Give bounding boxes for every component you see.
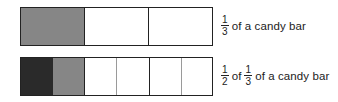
bar-segment-dark (21, 58, 53, 95)
label-one-third: 1 3 of a candy bar (221, 15, 306, 36)
fraction-numerator: 1 (244, 65, 252, 76)
fraction-denominator: 3 (245, 76, 251, 86)
fraction-one-half: 1 2 (221, 65, 229, 86)
label-text: of a candy bar (232, 20, 306, 32)
bar-segment-shaded (53, 58, 85, 95)
candy-bar-thirds (20, 7, 213, 46)
bar-segment-empty (150, 58, 182, 95)
bar-segment-empty (85, 58, 117, 95)
fraction-denominator: 2 (222, 76, 228, 86)
label-of: of (232, 70, 242, 82)
bar-segment-shaded (21, 8, 85, 45)
fraction-numerator: 1 (221, 65, 229, 76)
candy-bar-sixths (20, 57, 213, 96)
fraction-one-third: 1 3 (221, 15, 229, 36)
fraction-numerator: 1 (221, 15, 229, 26)
bar-segment-empty (85, 8, 149, 45)
bar-segment-empty (149, 8, 212, 45)
fraction-one-third: 1 3 (244, 65, 252, 86)
bar-segment-empty (182, 58, 212, 95)
label-text: of a candy bar (255, 70, 329, 82)
label-half-of-third: 1 2 of 1 3 of a candy bar (221, 65, 329, 86)
bar-segment-empty (117, 58, 150, 95)
fraction-denominator: 3 (222, 26, 228, 36)
